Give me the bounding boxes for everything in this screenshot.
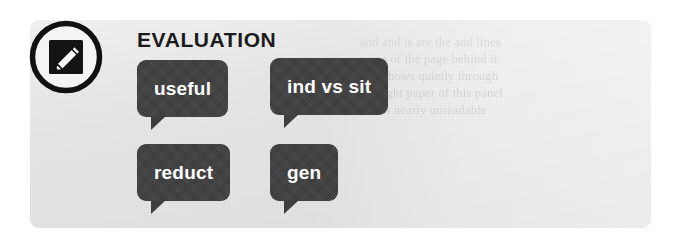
bubble-label: reduct (154, 163, 213, 182)
bubble-row-1: useful ind vs sit (107, 37, 527, 117)
bubble-label: gen (287, 163, 321, 182)
notepad-pencil-icon (24, 15, 108, 99)
bubble-reduct[interactable]: reduct (137, 144, 230, 201)
bubble-label: ind vs sit (287, 77, 371, 96)
bubble-useful[interactable]: useful (137, 60, 228, 117)
bubble-ind-vs-sit[interactable]: ind vs sit (270, 58, 388, 115)
bubble-gen[interactable]: gen (270, 144, 338, 201)
screenshot-canvas: and and is are the and lines some of the… (0, 0, 679, 244)
bubble-row-2: reduct gen (107, 117, 527, 197)
bubble-label: useful (154, 79, 211, 98)
bubble-group: useful ind vs sit reduct gen (107, 37, 527, 197)
